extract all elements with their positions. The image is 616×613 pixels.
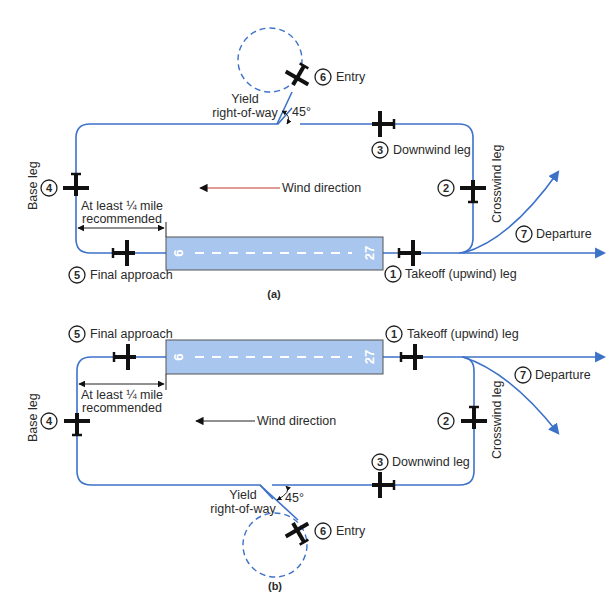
aircraft-icon-base [63, 174, 89, 196]
wind-label: Wind direction [257, 414, 336, 428]
runway-number-9: 9 [171, 353, 186, 360]
leg-label-5: 5 Final approach [69, 267, 173, 283]
leg-label-1: 1 Takeoff (upwind) leg [386, 326, 519, 342]
leg-label-6: 6 Entry [315, 69, 366, 85]
svg-text:Final approach: Final approach [90, 327, 173, 341]
svg-text:Crosswind leg: Crosswind leg [490, 144, 504, 223]
leg-label-7: 7 Departure [515, 367, 591, 383]
yield-label-1: Yield [231, 92, 258, 106]
traffic-pattern-diagram: 45° Yield right-of-way 9 27 Wind directi… [0, 0, 616, 613]
svg-text:Entry: Entry [336, 524, 366, 538]
distance-label-2: recommended [82, 401, 162, 415]
runway-number-9: 9 [171, 249, 186, 256]
wind-label: Wind direction [282, 181, 361, 195]
svg-text:1: 1 [391, 328, 397, 340]
yield-label-2: right-of-way [210, 502, 276, 516]
distance-label-2: recommended [82, 212, 162, 226]
panel-b: 45° Yield right-of-way 9 27 Wind directi… [26, 326, 604, 592]
pattern-path-final-base [76, 108, 292, 253]
svg-text:2: 2 [443, 182, 449, 194]
aircraft-icon-takeoff [399, 240, 421, 266]
svg-text:Crosswind leg: Crosswind leg [490, 380, 504, 459]
panel-caption-b: (b) [268, 580, 282, 592]
leg-label-3: 3 Downwind leg [372, 454, 470, 470]
svg-text:Departure: Departure [536, 227, 592, 241]
leg-label-6: 6 Entry [315, 523, 366, 539]
aircraft-icon-downwind [372, 472, 394, 498]
svg-text:Base leg: Base leg [26, 161, 40, 210]
aircraft-icon-crosswind [460, 180, 486, 202]
leg-label-3: 3 Downwind leg [372, 142, 471, 158]
aircraft-icon-entry [282, 517, 316, 549]
leg-label-1: 1 Takeoff (upwind) leg [385, 266, 517, 282]
panel-a: 45° Yield right-of-way 9 27 Wind directi… [26, 28, 604, 300]
runway-number-27: 27 [362, 246, 377, 260]
svg-text:Takeoff (upwind) leg: Takeoff (upwind) leg [407, 327, 519, 341]
leg-label-4: 4 Base leg [26, 161, 57, 210]
panel-caption-a: (a) [267, 288, 281, 300]
svg-text:Takeoff (upwind) leg: Takeoff (upwind) leg [405, 267, 517, 281]
entry-circle [243, 513, 307, 577]
distance-label-1: At least ¼ mile [81, 388, 163, 402]
angle-label: 45° [285, 491, 304, 505]
svg-text:Final approach: Final approach [90, 268, 173, 282]
angle-label: 45° [292, 105, 311, 119]
svg-text:7: 7 [521, 228, 527, 240]
leg-label-5: 5 Final approach [69, 326, 173, 342]
svg-text:2: 2 [443, 415, 449, 427]
svg-text:1: 1 [390, 268, 396, 280]
entry-line [277, 92, 292, 124]
svg-text:Downwind leg: Downwind leg [393, 143, 471, 157]
aircraft-icon-downwind [372, 111, 394, 137]
aircraft-icon-final [114, 344, 136, 370]
aircraft-icon-crosswind [461, 407, 487, 429]
svg-text:Downwind leg: Downwind leg [392, 455, 470, 469]
svg-text:Entry: Entry [336, 70, 366, 84]
svg-text:6: 6 [320, 525, 326, 537]
leg-label-7: 7 Departure [516, 226, 592, 242]
svg-text:7: 7 [520, 369, 526, 381]
aircraft-icon-final [113, 240, 135, 266]
runway-number-27: 27 [362, 350, 377, 364]
svg-text:Departure: Departure [535, 368, 591, 382]
svg-text:5: 5 [74, 269, 80, 281]
yield-label-2: right-of-way [212, 106, 278, 120]
aircraft-icon-takeoff [401, 344, 423, 370]
svg-text:Base leg: Base leg [26, 393, 40, 442]
svg-text:3: 3 [377, 456, 383, 468]
svg-text:3: 3 [377, 144, 383, 156]
svg-text:6: 6 [320, 71, 326, 83]
svg-text:4: 4 [46, 415, 53, 427]
distance-label-1: At least ¼ mile [81, 199, 163, 213]
svg-text:4: 4 [46, 182, 53, 194]
leg-label-4: 4 Base leg [26, 393, 57, 442]
svg-text:5: 5 [74, 328, 80, 340]
aircraft-icon-base [64, 413, 90, 435]
pattern-path-final-base [77, 357, 273, 499]
yield-label-1: Yield [229, 488, 256, 502]
